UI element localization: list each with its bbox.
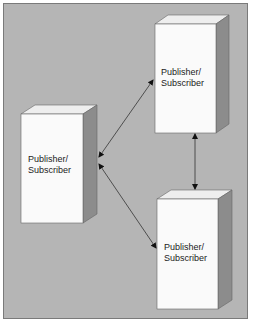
node-top-right-label-line1: Publisher/ xyxy=(161,67,201,78)
node-left-label-line2: Subscriber xyxy=(28,165,71,176)
edge-left-to-top-right xyxy=(99,80,153,157)
edge-left-to-bottom-right xyxy=(99,164,156,248)
node-top-right-label-line2: Subscriber xyxy=(161,78,204,89)
node-bottom-right-label-line1: Publisher/ xyxy=(164,242,204,253)
node-bottom-right-label-line2: Subscriber xyxy=(164,253,207,264)
node-left-label-line1: Publisher/ xyxy=(28,154,68,165)
